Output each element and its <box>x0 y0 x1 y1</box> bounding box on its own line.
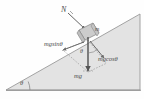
weight-perpendicular-label: mgcosθ <box>98 56 118 63</box>
weight-label: mg <box>74 73 82 80</box>
normal-force-vector <box>68 13 85 29</box>
incline-angle-label: θ <box>20 80 23 87</box>
block-angle-label: θ <box>80 48 83 54</box>
incline-plane-shape <box>6 14 140 90</box>
inclined-plane-diagram: N m mgsinθ mgcosθ mg θ θ <box>0 0 144 99</box>
normal-force-label: N <box>61 6 66 14</box>
normal-force-leader <box>70 11 73 14</box>
weight-parallel-label: mgsinθ <box>44 41 63 48</box>
mass-label: m <box>95 26 99 32</box>
